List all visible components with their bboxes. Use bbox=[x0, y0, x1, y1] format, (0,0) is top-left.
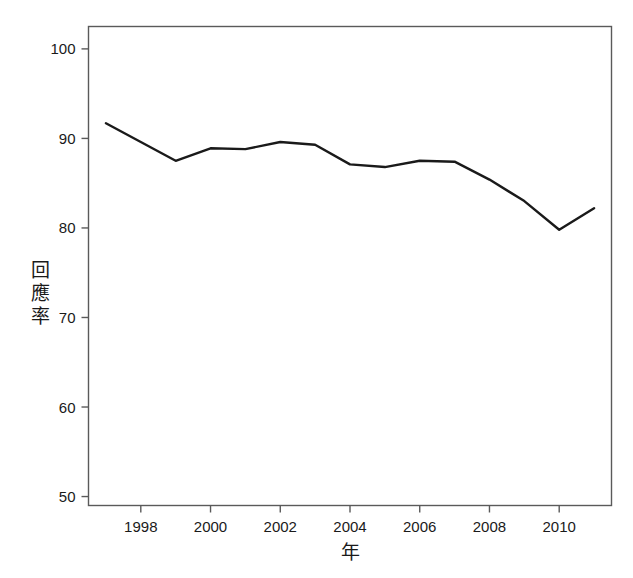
x-tick-label: 1998 bbox=[124, 518, 157, 535]
y-tick-label: 60 bbox=[59, 399, 76, 416]
line-chart: 5060708090100 19982000200220042006200820… bbox=[0, 0, 633, 578]
y-tick-label: 80 bbox=[59, 219, 76, 236]
y-tick-label: 100 bbox=[50, 40, 75, 57]
chart-figure: 5060708090100 19982000200220042006200820… bbox=[0, 0, 633, 578]
y-axis-title: 回 應 率 bbox=[31, 259, 50, 327]
figure-background bbox=[0, 0, 633, 578]
x-tick-label: 2006 bbox=[403, 518, 436, 535]
y-tick-label: 70 bbox=[59, 309, 76, 326]
x-axis-title: 年 bbox=[341, 541, 360, 563]
x-tick-label: 2002 bbox=[264, 518, 297, 535]
x-tick-label: 2000 bbox=[194, 518, 227, 535]
x-tick-label: 2008 bbox=[473, 518, 506, 535]
y-axis-title-char-2: 應 bbox=[31, 282, 50, 304]
x-tick-label: 2010 bbox=[543, 518, 576, 535]
y-tick-label: 50 bbox=[59, 488, 76, 505]
y-axis-title-char-3: 率 bbox=[31, 305, 50, 327]
x-tick-label: 2004 bbox=[333, 518, 366, 535]
y-tick-label: 90 bbox=[59, 130, 76, 147]
y-axis-title-char-1: 回 bbox=[31, 259, 50, 281]
